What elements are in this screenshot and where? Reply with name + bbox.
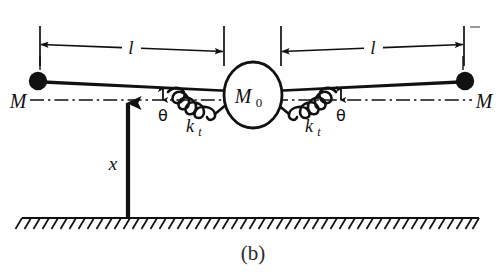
label-angle-right: θ bbox=[336, 106, 346, 125]
left-mass-ball bbox=[29, 72, 47, 90]
left-torsion-spring bbox=[168, 88, 227, 120]
right-rod bbox=[278, 80, 465, 92]
ground-hatching bbox=[16, 218, 480, 229]
left-arm-assembly bbox=[29, 56, 226, 92]
dim-left-arrow-a bbox=[41, 45, 122, 48]
label-spring-right: k bbox=[305, 116, 314, 136]
left-rod bbox=[38, 80, 226, 92]
label-length-left: l bbox=[128, 37, 133, 58]
right-mass-ball bbox=[456, 72, 474, 90]
label-mass-center-subscript: 0 bbox=[256, 95, 263, 110]
figure-caption: (b) bbox=[241, 241, 266, 265]
label-spring-left: k bbox=[186, 116, 195, 136]
label-displacement: x bbox=[108, 153, 118, 174]
dim-right-arrow-b bbox=[383, 45, 463, 48]
ground-support bbox=[16, 218, 480, 229]
right-arm-assembly bbox=[278, 56, 474, 92]
dim-left-arrow-b bbox=[141, 48, 223, 51]
dim-right-arrow-a bbox=[282, 48, 364, 51]
label-mass-center: M bbox=[234, 85, 253, 107]
label-spring-left-subscript: t bbox=[198, 125, 202, 139]
dimension-lines bbox=[40, 26, 480, 66]
figure-container: M M M 0 k t k t θ θ x l l (b) bbox=[0, 0, 501, 275]
label-mass-right: M bbox=[475, 90, 494, 112]
center-mass-circle bbox=[224, 62, 282, 128]
label-spring-right-group: k t bbox=[305, 116, 321, 139]
vibration-diagram: M M M 0 k t k t θ θ x l l (b) bbox=[0, 0, 501, 275]
label-spring-left-group: k t bbox=[186, 116, 202, 139]
center-mass-group bbox=[224, 62, 282, 128]
label-length-right: l bbox=[370, 37, 375, 58]
label-angle-left: θ bbox=[158, 106, 168, 125]
label-spring-right-subscript: t bbox=[317, 125, 321, 139]
label-mass-left: M bbox=[9, 90, 28, 112]
